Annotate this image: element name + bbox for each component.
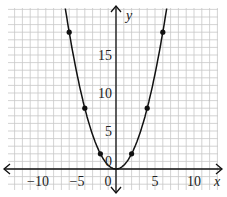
parabola-chart: −10−55100051015xy [0, 0, 227, 197]
data-point [129, 151, 134, 156]
x-tick-label: −10 [27, 174, 49, 189]
data-point [145, 106, 150, 111]
x-tick-label: 5 [152, 174, 159, 189]
data-point [98, 151, 103, 156]
data-point [82, 106, 87, 111]
y-tick-label: 15 [98, 48, 112, 63]
x-tick-label: 10 [187, 174, 201, 189]
y-tick-label: 0 [105, 154, 112, 169]
x-tick-label: −5 [70, 174, 85, 189]
y-tick-label: 10 [98, 86, 112, 101]
y-tick-label: 5 [105, 124, 112, 139]
data-point [160, 30, 165, 35]
axes [4, 6, 222, 193]
origin-label: 0 [105, 174, 112, 189]
data-point [67, 30, 72, 35]
y-axis-label: y [124, 8, 133, 23]
grid [8, 8, 218, 190]
x-axis-label: x [213, 174, 221, 189]
